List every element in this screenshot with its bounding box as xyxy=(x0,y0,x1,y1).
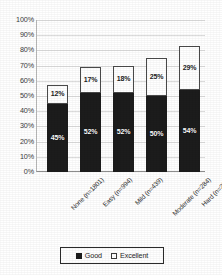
y-axis-tick: 70% xyxy=(0,62,34,70)
y-axis: 100% 90% 80% 70% 60% 50% 40% 30% 20% 10%… xyxy=(0,0,34,200)
legend-item-good[interactable]: Good xyxy=(76,252,102,260)
bar-value-label: 45% xyxy=(51,134,64,142)
x-axis-tick-easy: Easy (n=994) xyxy=(101,176,134,209)
bar-value-label: 50% xyxy=(150,130,163,138)
x-axis-tick-mild: Mild (n=439) xyxy=(133,176,164,207)
y-axis-tick: 40% xyxy=(0,107,34,115)
chart-legend: Good Excellent xyxy=(60,247,164,264)
legend-swatch-good-icon xyxy=(76,253,82,259)
legend-label-good: Good xyxy=(85,252,102,260)
x-axis: None (n=1801) Easy (n=994) Mild (n=439) … xyxy=(0,172,222,232)
y-axis-tick: 60% xyxy=(0,77,34,85)
bar-segment-excellent[interactable]: 29% xyxy=(179,46,200,90)
bar-group-none[interactable]: 12% 45% xyxy=(47,85,68,172)
bar-value-label: 18% xyxy=(117,75,130,83)
bar-segment-good[interactable]: 45% xyxy=(47,104,68,172)
bar-segment-good[interactable]: 54% xyxy=(179,90,200,172)
legend-swatch-excellent-icon xyxy=(111,253,117,259)
x-axis-tick-none: None (n=1801) xyxy=(70,176,106,212)
bar-value-label: 52% xyxy=(84,128,97,136)
bar-value-label: 25% xyxy=(150,73,163,81)
bar-segment-excellent[interactable]: 17% xyxy=(80,67,101,93)
y-axis-tick: 20% xyxy=(0,138,34,146)
bar-segment-excellent[interactable]: 12% xyxy=(47,85,68,103)
bar-segment-good[interactable]: 52% xyxy=(80,93,101,172)
legend-label-excellent: Excellent xyxy=(120,252,148,260)
bar-segment-excellent[interactable]: 18% xyxy=(113,66,134,93)
bar-group-mild[interactable]: 18% 52% xyxy=(113,66,134,172)
bars-layer: 12% 45% 17% 52% 18% 52% 25% xyxy=(36,20,205,172)
y-axis-tick: 30% xyxy=(0,122,34,130)
y-axis-tick: 90% xyxy=(0,31,34,39)
y-axis-tick: 10% xyxy=(0,153,34,161)
bar-value-label: 17% xyxy=(84,76,97,84)
bar-group-hard[interactable]: 29% 54% xyxy=(179,46,200,172)
bar-value-label: 52% xyxy=(117,128,130,136)
bar-value-label: 29% xyxy=(183,64,196,72)
legend-item-excellent[interactable]: Excellent xyxy=(111,252,148,260)
bar-segment-excellent[interactable]: 25% xyxy=(146,58,167,96)
bar-group-moderate[interactable]: 25% 50% xyxy=(146,58,167,172)
y-axis-tick: 100% xyxy=(0,16,34,24)
bar-value-label: 54% xyxy=(183,127,196,135)
bar-group-easy[interactable]: 17% 52% xyxy=(80,67,101,172)
bar-segment-good[interactable]: 52% xyxy=(113,93,134,172)
y-axis-tick: 80% xyxy=(0,46,34,54)
stacked-bar-chart-figure: 100% 90% 80% 70% 60% 50% 40% 30% 20% 10%… xyxy=(0,0,222,275)
y-axis-tick: 50% xyxy=(0,92,34,100)
bar-value-label: 12% xyxy=(51,90,64,98)
bar-segment-good[interactable]: 50% xyxy=(146,96,167,172)
